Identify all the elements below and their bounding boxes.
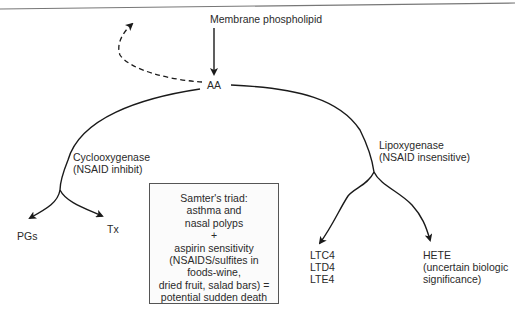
lte4-label: LTE4 [310, 273, 334, 286]
membrane-phospholipid-label: Membrane phospholipid [210, 13, 322, 26]
callout-line: dried fruit, salad bars) = [150, 279, 278, 291]
lipoxygenase-note: (NSAID insensitive) [379, 151, 470, 164]
ltc4-label: LTC4 [310, 249, 335, 262]
hete-label: HETE [423, 249, 451, 262]
callout-line: + [150, 229, 278, 241]
cyclooxygenase-note: (NSAID inhibit) [73, 163, 142, 176]
samters-triad-callout: Samter's triad: asthma and nasal polyps … [149, 183, 279, 304]
arrow-to-pgs [30, 190, 60, 218]
hete-note-line2: significance) [423, 273, 481, 286]
aa-node-label: AA [207, 79, 221, 92]
callout-line: Samter's triad: [150, 192, 278, 204]
callout-line: aspirin sensitivity [150, 242, 278, 254]
ltd4-label: LTD4 [310, 261, 335, 274]
pgs-label: PGs [17, 230, 37, 243]
tx-label: Tx [107, 223, 119, 236]
arrow-to-hete [374, 172, 430, 240]
callout-line: asthma and [150, 204, 278, 216]
callout-line: nasal polyps [150, 217, 278, 229]
lipoxygenase-label: Lipoxygenase [379, 139, 444, 152]
arrow-to-tx [60, 190, 102, 216]
cyclooxygenase-label: Cyclooxygenase [73, 151, 150, 164]
header-rule [0, 3, 515, 9]
hete-note-line1: (uncertain biologic [423, 261, 508, 274]
dashed-arrow-recycle [119, 24, 202, 82]
lox-arc [231, 85, 374, 172]
callout-line: (NSAIDS/sulfites in [150, 254, 278, 266]
arrow-to-leukotrienes [320, 172, 374, 243]
callout-line: foods-wine, [150, 266, 278, 278]
callout-line: potential sudden death [150, 291, 278, 303]
